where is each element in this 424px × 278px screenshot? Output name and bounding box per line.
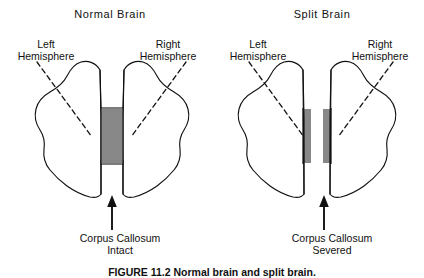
split-left-hemisphere-outline [238,61,304,197]
split-right-hemisphere-outline [330,61,396,197]
corpus-callosum-severed-right-stubs [323,108,331,164]
arrow-up-corpus-callosum-intact [107,195,117,230]
figure-caption: FIGURE 11.2 Normal brain and split brain… [0,266,424,278]
corpus-callosum-severed-left-stubs [303,108,311,164]
pointer-right-hemisphere-split [338,62,393,137]
normal-right-hemisphere-outline [123,61,189,197]
pointer-left-hemisphere-split [249,62,304,137]
pointer-left-hemisphere-normal [37,62,92,137]
pointer-right-hemisphere-normal [131,62,186,137]
corpus-callosum-intact-band [101,108,123,164]
arrow-up-corpus-callosum-severed [319,195,329,230]
normal-left-hemisphere-outline [35,61,101,197]
